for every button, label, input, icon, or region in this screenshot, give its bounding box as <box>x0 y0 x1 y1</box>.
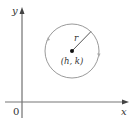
diagram-canvas: y 0 x r (h, k) <box>0 0 137 130</box>
radius-label: r <box>74 33 79 43</box>
origin-label: 0 <box>13 106 19 117</box>
y-axis-arrow-icon <box>20 7 25 14</box>
x-axis-arrow-icon <box>122 100 129 105</box>
center-point <box>70 49 74 53</box>
center-label: (h, k) <box>61 56 84 66</box>
x-axis-label: x <box>121 106 127 117</box>
circle-arrow-right-icon <box>97 54 101 58</box>
y-axis-label: y <box>11 5 18 16</box>
circle-arrow-left-icon <box>47 37 51 41</box>
